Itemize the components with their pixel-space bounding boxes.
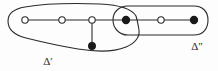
graph-node-filled-n5 — [122, 16, 129, 23]
graph-node-filled-n4 — [89, 43, 96, 50]
figure-container: Δ′ Δ″ — [0, 0, 218, 71]
graph-node-open-n3 — [89, 17, 95, 23]
region-label-delta-double-prime: Δ″ — [191, 40, 203, 52]
graph-node-open-n1 — [22, 17, 28, 23]
region-outline-delta-prime — [8, 4, 139, 51]
graph-diagram: Δ′ Δ″ — [0, 0, 218, 71]
graph-node-open-n2 — [59, 17, 65, 23]
graph-node-open-n6 — [158, 17, 164, 23]
graph-node-filled-n7 — [190, 16, 197, 23]
region-label-delta-prime: Δ′ — [43, 55, 52, 67]
